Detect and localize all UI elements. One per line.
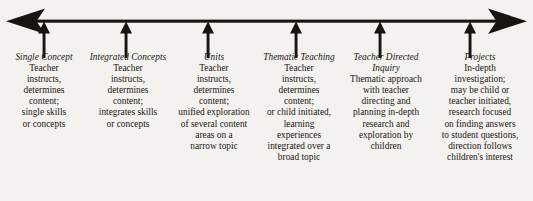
continuum-stage-projects: Projects In-depth investigation; may be … <box>428 52 532 163</box>
stage-description: Teacher instructs, determines content; o… <box>254 63 344 163</box>
continuum-stage-units: Units Teacher instructs, determines cont… <box>170 52 258 152</box>
continuum-stage-thematic-teaching: Thematic Teaching Teacher instructs, det… <box>254 52 344 163</box>
stage-header: Teacher Directed Inquiry <box>340 52 432 74</box>
continuum-stage-teacher-directed-inquiry: Teacher Directed Inquiry Thematic approa… <box>340 52 432 152</box>
continuum-diagram: Single Concept Teacher instructs, determ… <box>0 0 533 201</box>
continuum-stage-single-concept: Single Concept Teacher instructs, determ… <box>2 52 86 130</box>
left-arrowhead <box>6 9 45 35</box>
axis-shaft <box>30 20 503 23</box>
stage-description: Teacher instructs, determines content; i… <box>84 63 172 130</box>
stage-header: Thematic Teaching <box>254 52 344 63</box>
stage-description: Thematic approach with teacher directing… <box>340 74 432 152</box>
stage-header: Integrated Concepts <box>84 52 172 63</box>
stage-description: In-depth investigation; may be child or … <box>428 63 532 163</box>
stage-description: Teacher instructs, determines content; u… <box>170 63 258 152</box>
continuum-axis <box>0 0 533 58</box>
continuum-stage-integrated-concepts: Integrated Concepts Teacher instructs, d… <box>84 52 172 130</box>
continuum-columns: Single Concept Teacher instructs, determ… <box>0 52 533 201</box>
stage-description: Teacher instructs, determines content; s… <box>2 63 86 130</box>
stage-header: Single Concept <box>2 52 86 63</box>
stage-header: Units <box>170 52 258 63</box>
right-arrowhead <box>488 9 527 35</box>
stage-header: Projects <box>428 52 532 63</box>
